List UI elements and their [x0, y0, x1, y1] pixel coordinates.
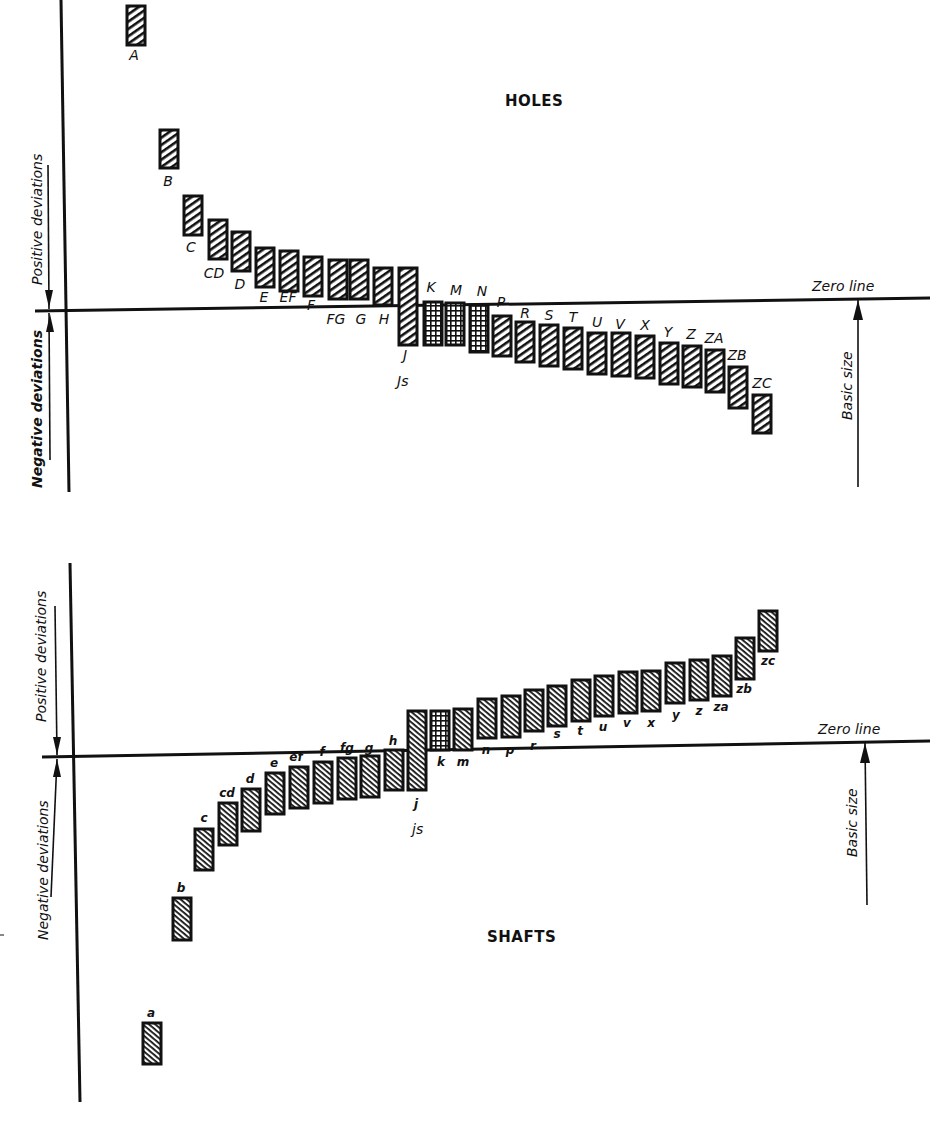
tolerance-zone	[470, 305, 488, 352]
tolerance-zone	[642, 671, 660, 711]
holes-bar-b: B	[160, 130, 178, 189]
holes-vertical-axis	[61, 0, 69, 492]
shafts-basic-size-label: Basic size	[844, 788, 860, 857]
holes-bar-label: E	[260, 289, 269, 305]
tolerance-zone	[280, 251, 298, 291]
shafts-bar-label: zb	[735, 682, 752, 696]
shafts-bar-c: c	[195, 811, 213, 870]
holes-bar-r: R	[516, 305, 534, 362]
shafts-bar-j: j	[408, 711, 426, 811]
shafts-bar-label: s	[553, 727, 560, 741]
shafts-zero-line-label: Zero line	[817, 721, 880, 737]
holes-bar-cd: CD	[204, 220, 227, 281]
shafts-bar-e: e	[266, 756, 284, 814]
shafts-bar-h: h	[385, 734, 403, 790]
holes-bar-n: N	[470, 283, 488, 352]
holes-bar-label: T	[569, 309, 579, 325]
shafts-bar-label: h	[389, 734, 398, 748]
holes-bar-label: M	[450, 282, 462, 298]
shafts-bar-v: v	[619, 672, 637, 730]
tolerance-zone	[588, 333, 606, 374]
tolerance-zone	[374, 268, 392, 305]
shafts-bar-label: za	[712, 700, 728, 714]
tolerance-zone	[454, 709, 472, 750]
shafts-bar-label: e	[270, 756, 278, 770]
holes-bar-label: Z	[685, 326, 696, 342]
holes-bar-k: K	[424, 279, 442, 345]
holes-bar-label: U	[592, 314, 602, 330]
holes-bars: ABCCDDEEFFFGGHJKMNPRSTUVXYZZAZBZC	[127, 6, 772, 433]
holes-bar-ef: EF	[280, 251, 298, 305]
holes-bar-label: G	[356, 311, 367, 327]
shafts-bar-t: t	[572, 680, 590, 738]
shafts-positive-label: Positive deviations	[33, 591, 49, 722]
holes-bar-h: H	[374, 268, 392, 327]
tolerance-zone	[753, 395, 771, 433]
holes-bar-label: S	[545, 307, 554, 323]
shafts-positive-arrow	[55, 606, 57, 755]
tolerance-zone	[399, 268, 417, 345]
tolerance-zone	[713, 656, 731, 696]
holes-bar-e: E	[256, 248, 274, 305]
tolerance-zone	[446, 303, 464, 345]
shafts-bar-label: c	[200, 811, 207, 825]
shafts-bar-label: y	[672, 708, 681, 722]
tolerance-zone	[478, 699, 496, 738]
holes-positive-arrow	[48, 165, 49, 309]
holes-bar-label: P	[497, 294, 506, 310]
tolerance-zone	[232, 232, 250, 271]
tolerance-zone	[314, 762, 332, 803]
holes-bar-g: G	[350, 260, 368, 327]
tolerance-zone	[595, 676, 613, 716]
holes-bar-za: ZA	[703, 330, 724, 392]
arrow-up-icon	[853, 300, 863, 320]
holes-bar-t: T	[564, 309, 582, 369]
tolerance-zone	[736, 638, 754, 679]
holes-positive-label: Positive deviations	[29, 154, 45, 285]
tolerance-zone	[683, 346, 701, 387]
tolerance-zone	[572, 680, 590, 721]
shafts-bar-label: b	[177, 881, 186, 895]
shafts-bar-label: fg	[340, 741, 354, 755]
shafts-bar-x: x	[642, 671, 660, 730]
shafts-bar-b: b	[173, 881, 191, 940]
shafts-bar-label: g	[365, 741, 374, 755]
tolerance-zone	[759, 611, 777, 651]
holes-bar-label: D	[235, 276, 246, 292]
shafts-bar-label: v	[623, 716, 632, 730]
holes-bar-label: J	[400, 347, 407, 363]
shafts-bar-label: n	[482, 743, 491, 757]
tolerance-zone	[219, 803, 237, 845]
shafts-bar-label: cd	[219, 786, 235, 800]
tolerance-zone	[706, 350, 724, 392]
tolerance-zone	[408, 711, 426, 790]
shafts-negative-label: Negative deviations	[35, 800, 51, 940]
tolerance-zone	[690, 660, 708, 700]
shafts-bar-d: d	[242, 772, 260, 831]
shafts-bar-label: z	[695, 704, 704, 718]
shafts-bar-label: j	[412, 797, 419, 811]
holes-bar-x: X	[636, 317, 654, 378]
holes-bar-y: Y	[660, 324, 678, 384]
tolerance-zone	[173, 898, 191, 940]
holes-basic-size-label: Basic size	[839, 351, 855, 420]
holes-bar-label: R	[520, 305, 530, 321]
holes-zero-line-label: Zero line	[811, 278, 874, 294]
holes-bar-c: C	[184, 196, 202, 255]
holes-bar-d: D	[232, 232, 250, 292]
tolerance-zone	[612, 333, 630, 376]
shafts-bar-cd: cd	[219, 786, 237, 845]
holes-bar-label: FG	[327, 311, 346, 327]
tolerance-zone	[242, 789, 260, 831]
tolerance-zone	[160, 130, 178, 168]
arrow-down-icon	[53, 737, 61, 755]
holes-bar-m: M	[446, 282, 464, 345]
shafts-bar-s: s	[548, 686, 566, 741]
shafts-bar-z: z	[690, 660, 708, 718]
holes-bar-s: S	[540, 307, 558, 366]
shafts-bar-u: u	[595, 676, 613, 734]
tolerance-zone	[424, 302, 442, 345]
shafts-negative-arrow	[51, 759, 57, 897]
tolerance-zone	[304, 257, 322, 296]
shafts-bar-label: k	[437, 755, 446, 769]
